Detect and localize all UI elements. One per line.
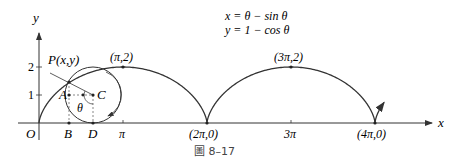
y-tick-2: 2 (28, 60, 34, 74)
cycloid-arrow-tail (375, 102, 384, 123)
rotation-arrow (106, 72, 121, 116)
equation-y: y = 1 − cos θ (224, 23, 290, 37)
x-axis-label: x (437, 115, 444, 130)
y-tick-1: 1 (28, 88, 34, 102)
label-C: C (97, 87, 106, 102)
point-peak2 (289, 65, 292, 68)
equation-x: x = θ − sin θ (224, 9, 287, 23)
point-D (91, 121, 94, 124)
point-peak1 (121, 65, 124, 68)
point-A (67, 93, 70, 96)
label-B: B (64, 126, 72, 141)
label-A: A (58, 87, 67, 102)
point-B (67, 121, 70, 124)
point-cusp2 (373, 121, 376, 124)
label-cusp2: (4π,0) (357, 127, 386, 141)
label-P: P(x,y) (47, 52, 79, 67)
label-theta: θ (77, 101, 83, 115)
label-peak1: (π,2) (110, 50, 133, 64)
cycloid-diagram: y x O 2 1 π 3π P(x,y) A C θ B D (π,2) (3… (0, 0, 449, 159)
label-cusp1: (2π,0) (189, 127, 218, 141)
point-C (91, 93, 94, 96)
label-D: D (87, 126, 98, 141)
x-tick-3pi: 3π (283, 127, 297, 141)
origin-label: O (26, 126, 36, 141)
point-mid (82, 94, 85, 97)
figure-caption: 圖 8–17 (194, 145, 235, 158)
point-cusp1 (205, 121, 208, 124)
label-peak2: (3π,2) (274, 50, 303, 64)
y-axis-label: y (31, 10, 39, 25)
point-P (67, 80, 70, 83)
x-tick-pi: π (119, 127, 126, 141)
